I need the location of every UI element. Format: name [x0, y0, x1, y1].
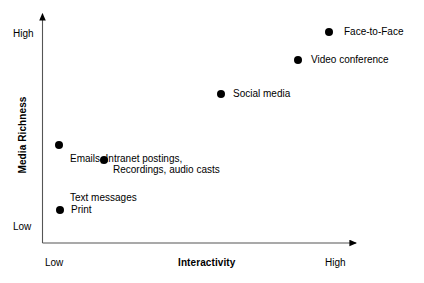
- y-axis-tick-high: High: [13, 28, 34, 39]
- data-point-social-media: [217, 90, 225, 98]
- data-point-print: [56, 206, 64, 214]
- media-richness-scatter-chart: Interactivity Media Richness High Low Lo…: [0, 0, 424, 283]
- data-label-face-to-face: Face-to-Face: [344, 25, 403, 38]
- data-label-print: Print: [71, 203, 92, 216]
- x-axis-tick-high: High: [325, 257, 346, 268]
- data-label-recordings-audio-casts: Recordings, audio casts: [113, 163, 220, 176]
- data-point-emails-intranet-text: [55, 141, 63, 149]
- x-axis-tick-low: Low: [45, 257, 63, 268]
- y-axis-tick-low: Low: [13, 221, 31, 232]
- data-label-social-media: Social media: [233, 87, 290, 100]
- y-axis-title: Media Richness: [17, 97, 28, 174]
- data-point-face-to-face: [325, 28, 333, 36]
- data-point-recordings-audio-casts: [100, 156, 108, 164]
- x-axis-title: Interactivity: [178, 257, 235, 268]
- data-point-video-conference: [294, 56, 302, 64]
- data-label-video-conference: Video conference: [311, 53, 389, 66]
- chart-axes: [0, 0, 424, 283]
